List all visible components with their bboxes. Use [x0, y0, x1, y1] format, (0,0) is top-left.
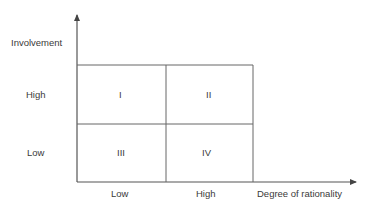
y-axis-label: Involvement [11, 37, 62, 48]
x-level-high: High [196, 188, 216, 199]
x-level-low: Low [111, 188, 128, 199]
quadrant-I: I [119, 89, 122, 100]
matrix-diagram [0, 0, 373, 209]
y-level-high: High [26, 89, 46, 100]
quadrant-IV: IV [202, 147, 211, 158]
quadrant-III: III [117, 147, 125, 158]
quadrant-II: II [206, 89, 211, 100]
x-axis-label: Degree of rationality [257, 188, 342, 199]
y-level-low: Low [27, 147, 44, 158]
